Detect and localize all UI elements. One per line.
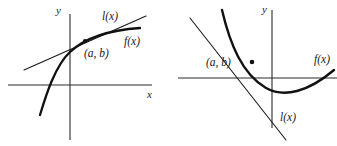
x-axis-label: x: [147, 89, 152, 100]
tangency-point: [250, 60, 255, 65]
tangent-line-label: l(x): [280, 112, 296, 124]
tangency-point-label: (a, b): [84, 48, 109, 60]
diagram-panel-left: y x l(x) f(x) (a, b): [0, 0, 168, 146]
tangent-line-label: l(x): [102, 11, 118, 23]
y-axis-label: y: [56, 5, 61, 16]
tangency-point-label: (a, b): [206, 57, 231, 69]
left-panel-graphics: [0, 0, 168, 146]
curve-label: f(x): [314, 54, 337, 66]
figure-canvas: y x l(x) f(x) (a, b) y l(x) f(x) (a, b): [0, 0, 337, 146]
curve-label: f(x): [124, 36, 140, 48]
diagram-panel-right: y l(x) f(x) (a, b): [168, 0, 337, 146]
right-panel-graphics: [168, 0, 337, 146]
tangency-point: [83, 39, 87, 43]
y-axis-label: y: [262, 4, 267, 15]
